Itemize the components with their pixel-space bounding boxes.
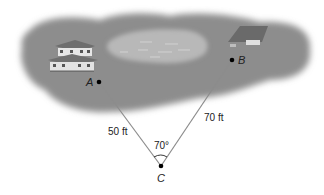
label-c: C <box>157 173 165 184</box>
label-b: B <box>238 55 245 66</box>
label-a: A <box>86 77 93 88</box>
label-angle-c: 70° <box>154 141 169 151</box>
angle-arc-c <box>154 155 167 157</box>
point-a <box>97 80 102 85</box>
label-segment-ac: 50 ft <box>108 127 127 137</box>
diagram-canvas <box>0 0 324 195</box>
point-c <box>159 164 164 169</box>
label-segment-bc: 70 ft <box>204 113 223 123</box>
point-b <box>230 58 235 63</box>
